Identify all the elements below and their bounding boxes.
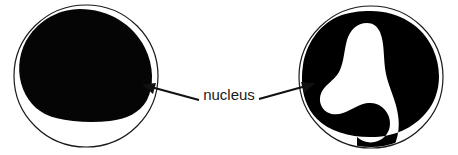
right-cell	[299, 6, 443, 150]
arrow-right-shaft	[259, 86, 306, 99]
cell-nucleus-diagram: nucleus	[0, 0, 458, 155]
nucleus-label: nucleus	[203, 86, 255, 103]
arrow-left-shaft	[151, 87, 199, 100]
left-cell	[14, 5, 158, 147]
diagram-canvas: nucleus	[0, 0, 458, 155]
